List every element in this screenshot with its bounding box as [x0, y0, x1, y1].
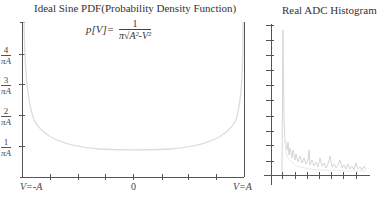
x-tick-neg-A: V=-A	[20, 181, 42, 192]
y-tick-1-over-piA: 1 πA	[1, 137, 11, 158]
x-tick-zero: 0	[131, 181, 136, 192]
y-tick-3-over-piA: 3 πA	[1, 75, 11, 96]
right-chart-axes	[264, 24, 370, 185]
sine-pdf-curve	[24, 22, 243, 150]
adc-histogram-curve	[282, 30, 366, 172]
y-tick-2-over-piA: 2 πA	[1, 106, 11, 127]
y-tick-4-over-piA: 4 πA	[1, 45, 11, 66]
x-tick-pos-A: V=A	[233, 181, 252, 192]
left-chart-axes	[19, 22, 245, 180]
